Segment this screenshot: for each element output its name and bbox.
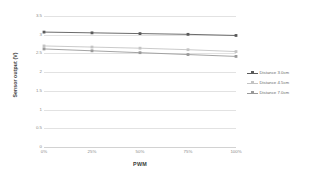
y-axis-title: Sensor output (V) — [8, 0, 22, 150]
y-axis-tick-label: 2 — [40, 70, 42, 74]
data-point-marker — [235, 50, 238, 53]
data-point-marker — [91, 46, 94, 49]
x-axis-tick-label: 50% — [136, 150, 145, 154]
x-axis-title: PWM — [44, 161, 236, 167]
data-point-marker — [91, 49, 94, 52]
data-point-marker — [139, 51, 142, 54]
data-point-marker — [43, 48, 46, 51]
x-axis-tick-labels: 0%25%50%75%100% — [44, 150, 236, 159]
y-axis-tick-labels: 3.532.521.510.50 — [22, 16, 42, 147]
y-axis-tick-label: 1.5 — [36, 89, 42, 93]
chart-legend: Distance 3.0cmDistance 4.5cmDistance 7.0… — [247, 68, 311, 98]
legend-label: Distance 3.0cm — [260, 71, 290, 75]
data-point-marker — [187, 48, 190, 51]
y-axis-tick-label: 3.5 — [36, 14, 42, 18]
data-point-marker — [235, 34, 238, 37]
data-point-marker — [43, 45, 46, 48]
plot-area — [44, 16, 236, 147]
data-point-marker — [235, 55, 238, 58]
x-axis-tick-label: 75% — [184, 150, 193, 154]
data-point-marker — [43, 31, 46, 34]
data-point-marker — [91, 31, 94, 34]
y-axis-title-label: Sensor output (V) — [12, 52, 18, 97]
x-axis-tick-label: 25% — [88, 150, 97, 154]
y-axis-tick-label: 2.5 — [36, 51, 42, 55]
data-point-marker — [187, 53, 190, 56]
data-point-marker — [139, 47, 142, 50]
x-axis-tick-label: 100% — [230, 150, 241, 154]
series-layer — [44, 16, 236, 147]
legend-swatch-icon — [247, 70, 258, 77]
legend-swatch-icon — [247, 80, 258, 87]
y-axis-tick-label: 1 — [40, 107, 42, 111]
legend-entry[interactable]: Distance 4.5cm — [247, 78, 311, 88]
gridline — [44, 147, 236, 148]
legend-label: Distance 4.5cm — [260, 81, 290, 85]
y-axis-tick-label: 3 — [40, 33, 42, 37]
y-axis-tick-label: 0.5 — [36, 126, 42, 130]
data-point-marker — [187, 33, 190, 36]
line-chart: Sensor output (V) 3.532.521.510.50 0%25%… — [0, 0, 314, 181]
x-axis-tick-label: 0% — [41, 150, 47, 154]
legend-entry[interactable]: Distance 7.0cm — [247, 88, 311, 98]
legend-entry[interactable]: Distance 3.0cm — [247, 68, 311, 78]
data-point-marker — [139, 32, 142, 35]
legend-label: Distance 7.0cm — [260, 91, 290, 95]
legend-swatch-icon — [247, 90, 258, 97]
